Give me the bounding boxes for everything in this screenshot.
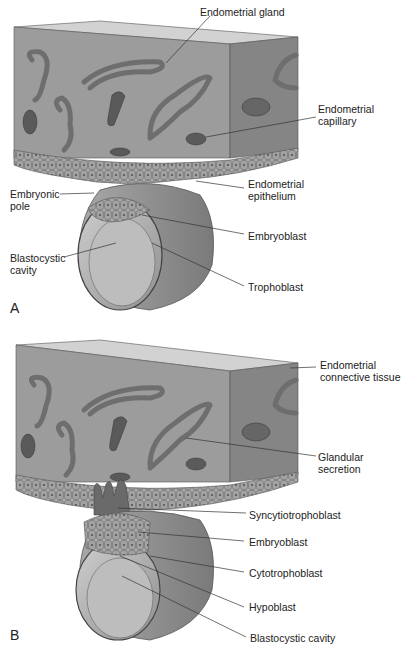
label-blastocystic-cavity-a: Blastocystic cavity	[10, 252, 65, 276]
panel-b-block	[16, 340, 298, 640]
label-embryonic-pole: Embryonic pole	[10, 188, 60, 212]
syncytiotrophoblast-shape	[94, 480, 130, 515]
label-blastocystic-cavity-b: Blastocystic cavity	[250, 632, 335, 644]
label-endometrial-connective-tissue: Endometrial connective tissue	[320, 359, 401, 383]
illustration	[0, 0, 414, 649]
label-embryoblast-a: Embryoblast	[248, 230, 306, 242]
label-glandular-secretion: Glandular secretion	[318, 451, 364, 475]
label-embryoblast-b: Embryoblast	[249, 536, 307, 548]
blastocyst-b	[76, 511, 214, 640]
panel-letter-a: A	[10, 300, 19, 316]
label-endometrial-capillary: Endometrial capillary	[318, 103, 374, 127]
blastocyst-a	[78, 184, 214, 310]
implantation-figure: Endometrial gland Endometrial capillary …	[0, 0, 414, 649]
label-trophoblast: Trophoblast	[248, 281, 303, 293]
label-hypoblast: Hypoblast	[249, 601, 296, 613]
label-cytotrophoblast: Cytotrophoblast	[249, 567, 323, 579]
label-endometrial-gland-a: Endometrial gland	[200, 6, 285, 18]
label-syncytiotrophoblast: Syncytiotrophoblast	[249, 509, 341, 521]
label-endometrial-epithelium: Endometrial epithelium	[248, 178, 304, 202]
panel-letter-b: B	[10, 627, 19, 643]
